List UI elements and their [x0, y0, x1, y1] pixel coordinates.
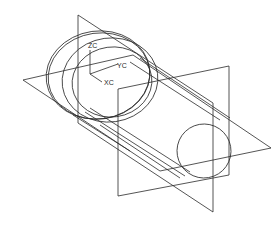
y-axis — [90, 64, 118, 74]
shaft-body — [73, 58, 230, 178]
shaft-end-face — [173, 120, 236, 183]
y-axis-label: YC — [117, 62, 127, 69]
horizontal-datum-plane — [23, 55, 271, 171]
cad-wireframe-drawing: ZC YC XC — [0, 0, 280, 226]
z-axis-label: ZC — [88, 42, 97, 49]
x-axis-label: XC — [104, 79, 114, 86]
x-axis — [90, 74, 102, 82]
flange — [40, 24, 163, 128]
